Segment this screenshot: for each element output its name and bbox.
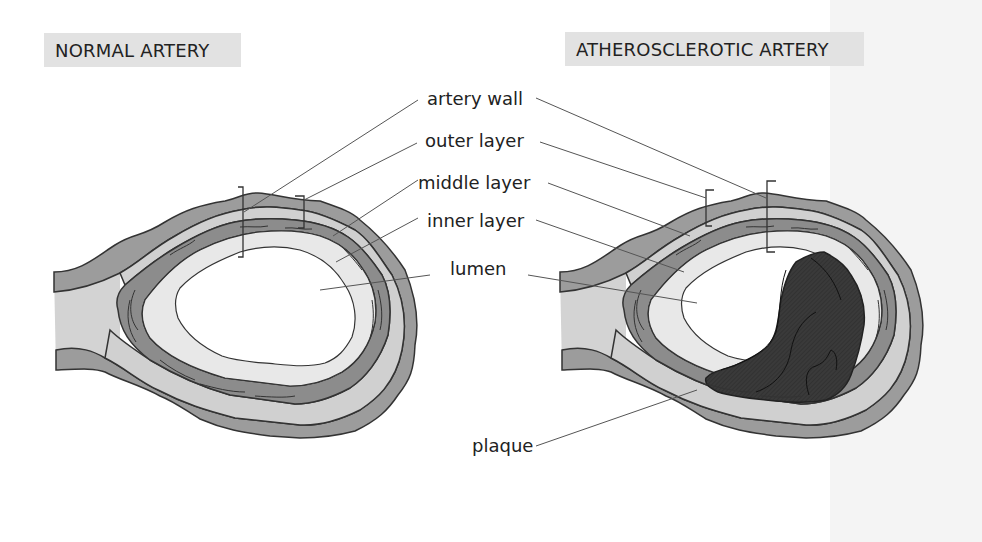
label-middle-layer: middle layer xyxy=(418,173,530,193)
normal-artery xyxy=(54,187,417,438)
label-plaque: plaque xyxy=(472,436,533,456)
label-outer-layer: outer layer xyxy=(425,131,524,151)
label-inner-layer: inner layer xyxy=(427,211,524,231)
label-lumen: lumen xyxy=(450,259,506,279)
atherosclerotic-artery xyxy=(560,193,923,438)
label-artery-wall: artery wall xyxy=(427,89,523,109)
